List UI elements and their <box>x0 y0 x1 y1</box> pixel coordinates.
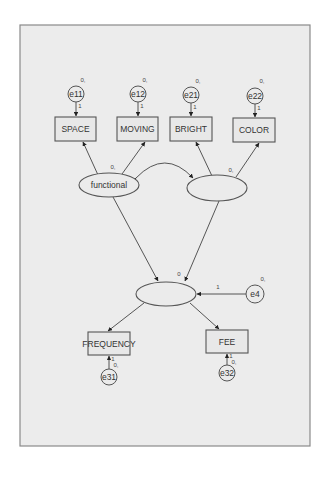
error-e22-label: e22 <box>248 91 262 101</box>
functional-label: functional <box>91 180 127 190</box>
error-e12-label: e12 <box>131 89 145 99</box>
latent-outcome[interactable] <box>136 282 196 306</box>
observed-space[interactable]: SPACE <box>55 117 96 141</box>
error-e21-label: e21 <box>184 90 198 100</box>
e22-mean: 0, <box>259 78 264 84</box>
second-mean: 0, <box>228 167 233 173</box>
fee-label: FEE <box>219 337 236 347</box>
observed-moving[interactable]: MOVING <box>117 117 158 141</box>
error-e32[interactable]: e32 <box>219 365 235 381</box>
observed-fee[interactable]: FEE <box>206 330 248 353</box>
frequency-label: FREQUENCY <box>82 339 136 349</box>
sem-diagram: e11 0, 1 e12 0, 1 e21 0, 1 e22 0, 1 SPAC… <box>0 0 329 477</box>
e12-mean: 0, <box>142 77 147 83</box>
space-label: SPACE <box>61 124 90 134</box>
error-e32-label: e32 <box>220 368 234 378</box>
latent-second[interactable] <box>187 175 247 201</box>
observed-bright[interactable]: BRIGHT <box>170 117 212 141</box>
error-e4[interactable]: e4 <box>246 285 264 303</box>
diagram-frame <box>20 25 310 446</box>
e21-mean: 0, <box>195 78 200 84</box>
error-e11[interactable]: e11 <box>68 86 84 102</box>
functional-mean: 0, <box>110 164 115 170</box>
e32-mean: 0, <box>231 359 236 365</box>
e11-mean: 0, <box>80 77 85 83</box>
error-e22[interactable]: e22 <box>247 88 263 104</box>
moving-label: MOVING <box>120 124 154 134</box>
error-e12[interactable]: e12 <box>130 86 146 102</box>
e31-mean: 0, <box>113 362 118 368</box>
observed-frequency[interactable]: FREQUENCY <box>82 332 136 355</box>
observed-color[interactable]: COLOR <box>233 118 275 142</box>
bright-label: BRIGHT <box>175 124 207 134</box>
error-e4-label: e4 <box>250 289 260 299</box>
latent-functional[interactable]: functional <box>79 173 139 197</box>
e4-mean: 0, <box>260 276 265 282</box>
color-label: COLOR <box>239 125 269 135</box>
error-e11-label: e11 <box>69 89 83 99</box>
error-e31[interactable]: e31 <box>101 369 117 385</box>
error-e31-label: e31 <box>102 372 116 382</box>
error-e21[interactable]: e21 <box>183 87 199 103</box>
